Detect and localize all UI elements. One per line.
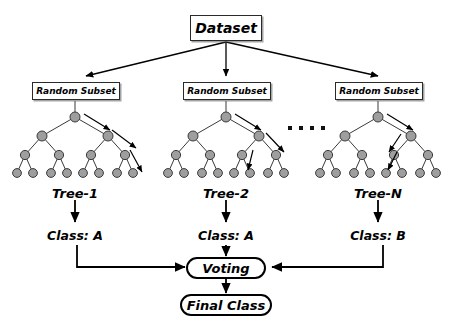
tree-label-1: Tree-1	[25, 186, 125, 201]
trees-ellipsis	[288, 126, 325, 130]
tree-to-class-arrows	[75, 200, 378, 222]
tree-2-path-arrows	[235, 114, 284, 170]
diagram-canvas	[0, 0, 453, 333]
class-label-2: Class: A	[171, 228, 281, 243]
random-subset-box-3: Random Subset	[335, 82, 423, 100]
random-subset-box-2: Random Subset	[183, 82, 271, 100]
subset-to-tree-connectors	[75, 101, 378, 112]
voting-node: Voting	[186, 257, 266, 279]
tree-2-graphic	[164, 112, 289, 177]
class-label-3: Class: B	[323, 228, 433, 243]
tree-label-3: Tree-N	[328, 186, 428, 201]
random-forest-diagram: Dataset Random Subset Random Subset Rand…	[0, 0, 453, 333]
tree-n-graphic	[316, 112, 441, 177]
tree-1-graphic	[13, 112, 142, 177]
class-label-1: Class: A	[20, 228, 130, 243]
final-class-node: Final Class	[180, 294, 272, 316]
random-subset-box-1: Random Subset	[32, 82, 120, 100]
dataset-to-subsets-arrows	[86, 42, 378, 76]
tree-label-2: Tree-2	[176, 186, 276, 201]
tree-1-path-arrows	[84, 114, 142, 172]
dataset-node: Dataset	[190, 15, 262, 41]
